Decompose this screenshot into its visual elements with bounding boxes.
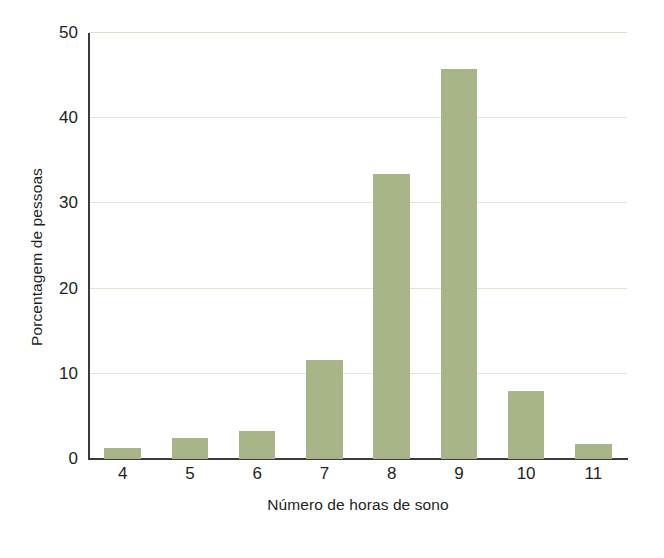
- y-tick-label: 10: [0, 364, 78, 384]
- x-tick-label: 11: [585, 464, 603, 484]
- x-tick-label: 9: [454, 464, 463, 484]
- bar: [239, 431, 276, 459]
- x-tick-label: 10: [517, 464, 536, 484]
- x-tick-label: 5: [185, 464, 194, 484]
- y-tick-label: 30: [0, 193, 78, 213]
- y-axis-tick-labels: 01020304050: [0, 0, 82, 558]
- bar: [104, 448, 141, 459]
- y-tick-label: 40: [0, 108, 78, 128]
- bar: [306, 360, 343, 459]
- y-tick-label: 50: [0, 23, 78, 43]
- x-axis-title: Número de horas de sono: [89, 496, 627, 514]
- bar: [172, 438, 209, 459]
- x-tick-label: 7: [320, 464, 329, 484]
- x-tick-label: 8: [387, 464, 396, 484]
- bar-chart-figure: Porcentagem de pessoas 01020304050 45678…: [0, 0, 664, 558]
- bar: [373, 174, 410, 459]
- y-tick-label: 20: [0, 279, 78, 299]
- x-tick-label: 6: [252, 464, 261, 484]
- x-axis-tick-labels: 4567891011: [89, 464, 627, 490]
- y-tick-label: 0: [0, 449, 78, 469]
- bar: [575, 444, 612, 459]
- bar: [508, 391, 545, 459]
- bar: [441, 69, 478, 459]
- x-tick-label: 4: [118, 464, 127, 484]
- bar-series: [89, 33, 627, 459]
